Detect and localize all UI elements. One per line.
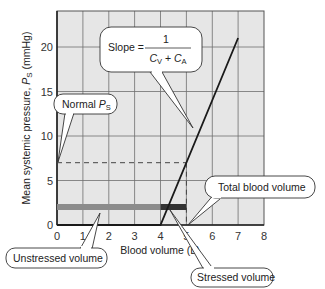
x-tick: 4 — [157, 230, 163, 242]
unstressed-volume-bar — [57, 204, 161, 210]
slope-label: Slope = — [108, 41, 144, 53]
slope-numerator: 1 — [163, 33, 169, 45]
normal-ps-label: Normal PS — [62, 98, 111, 112]
slope-denominator: CV + CA — [149, 52, 186, 66]
y-axis-title: Mean systemic pressure, PS (mmHg) — [20, 32, 34, 205]
total-blood-volume-label: Total blood volume — [218, 181, 306, 193]
x-tick: 2 — [106, 230, 112, 242]
x-tick: 0 — [54, 230, 60, 242]
y-tick-labels: 0 5 10 15 20 — [41, 41, 53, 231]
y-tick: 10 — [41, 130, 53, 142]
y-tick: 5 — [47, 175, 53, 187]
x-tick: 7 — [235, 230, 241, 242]
y-tick: 15 — [41, 86, 53, 98]
x-tick: 6 — [209, 230, 215, 242]
y-tick: 20 — [41, 41, 53, 53]
stressed-volume-bar — [161, 204, 187, 210]
x-axis-title: Blood volume (L) — [120, 244, 199, 256]
y-tick: 0 — [47, 219, 53, 231]
unstressed-volume-label: Unstressed volume — [13, 252, 103, 264]
x-tick: 3 — [132, 230, 138, 242]
stressed-volume-label: Stressed volume — [197, 271, 275, 283]
chart-canvas: 0 1 2 3 4 5 6 7 8 0 5 10 15 20 Blood vol… — [0, 0, 325, 289]
x-tick: 8 — [261, 230, 267, 242]
